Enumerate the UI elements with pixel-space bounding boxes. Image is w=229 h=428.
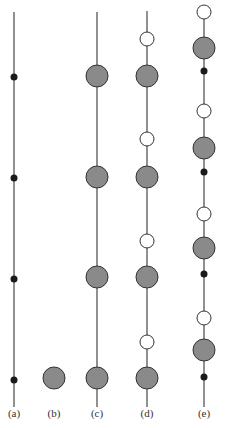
column-b — [43, 367, 65, 389]
open-white-circle — [197, 104, 211, 118]
large-grey-circle — [193, 137, 215, 159]
large-grey-circle — [136, 367, 158, 389]
large-grey-circle — [193, 339, 215, 361]
small-black-dot — [201, 374, 208, 381]
large-grey-circle — [193, 37, 215, 59]
small-black-dot — [11, 377, 18, 384]
large-grey-circle — [86, 166, 108, 188]
small-black-dot — [11, 276, 18, 283]
large-grey-circle — [86, 65, 108, 87]
label-c: (c) — [82, 407, 112, 419]
large-grey-circle — [86, 266, 108, 288]
small-black-dot — [201, 271, 208, 278]
large-grey-circle — [136, 266, 158, 288]
small-black-dot — [11, 74, 18, 81]
label-a: (a) — [0, 407, 29, 419]
label-e: (e) — [189, 407, 219, 419]
column-a — [11, 12, 18, 407]
lattice-diagram — [0, 0, 229, 428]
open-white-circle — [140, 132, 154, 146]
large-grey-circle — [86, 367, 108, 389]
open-white-circle — [197, 207, 211, 221]
large-grey-circle — [136, 65, 158, 87]
open-white-circle — [197, 311, 211, 325]
open-white-circle — [197, 5, 211, 19]
column-d — [136, 11, 158, 407]
column-e — [193, 5, 215, 407]
open-white-circle — [140, 335, 154, 349]
large-grey-circle — [193, 237, 215, 259]
open-white-circle — [140, 32, 154, 46]
small-black-dot — [11, 175, 18, 182]
large-grey-circle — [136, 166, 158, 188]
large-grey-circle — [43, 367, 65, 389]
small-black-dot — [201, 68, 208, 75]
small-black-dot — [201, 169, 208, 176]
open-white-circle — [140, 234, 154, 248]
label-d: (d) — [132, 407, 162, 419]
label-b: (b) — [39, 407, 69, 419]
column-c — [86, 12, 108, 407]
